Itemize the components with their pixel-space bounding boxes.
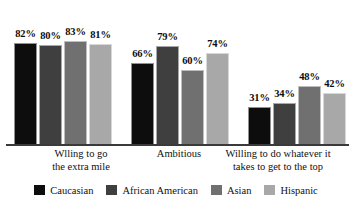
bar-hispanic[interactable] [89,44,112,146]
bar-caucasian[interactable] [248,107,271,146]
legend-label: Hispanic [280,185,317,196]
legend-item-caucasian[interactable]: Caucasian [34,185,93,196]
legend-item-asian[interactable]: Asian [211,185,252,196]
category-label-whatever-it-takes: Willing to do whatever it takes to get t… [204,148,352,173]
category-label-line2: takes to get to the top [204,161,352,174]
bar-hispanic[interactable] [206,53,229,146]
bar-group-ambitious: 66% 79% 60% 74% [131,0,229,146]
bar-caucasian[interactable] [14,43,37,146]
bar-african-american[interactable] [273,103,296,146]
bar-asian[interactable] [181,70,204,146]
bar-african-american[interactable] [39,45,62,146]
chart-legend: Caucasian African American Asian Hispani… [0,181,352,199]
bar-slot: 60% [181,0,204,146]
category-label-line1: Willing to do whatever it [225,148,330,159]
legend-item-hispanic[interactable]: Hispanic [264,185,317,196]
plot-area: 82% 80% 83% 81% 66% [0,0,352,146]
bar-group-whatever-it-takes: 31% 34% 48% 42% [248,0,346,146]
grouped-bar-chart: 82% 80% 83% 81% 66% [0,0,352,203]
legend-label: Caucasian [50,185,93,196]
category-labels: Wlling to go the extra mile Ambitious Wi… [0,148,352,178]
bar-group-willing-extra-mile: 82% 80% 83% 81% [14,0,112,146]
bar-slot: 81% [89,0,112,146]
bar-caucasian[interactable] [131,63,154,146]
legend-label: African American [122,185,198,196]
bar-value-label: 74% [207,38,227,49]
bar-asian[interactable] [298,86,321,146]
bar-african-american[interactable] [156,46,179,146]
bar-value-label: 42% [324,78,344,89]
x-axis-baseline [6,144,349,146]
bar-slot: 82% [14,0,37,146]
bar-value-label: 34% [274,88,294,99]
bar-value-label: 80% [40,30,60,41]
bar-value-label: 79% [157,31,177,42]
legend-swatch-caucasian [34,185,45,195]
bar-slot: 48% [298,0,321,146]
bar-slot: 66% [131,0,154,146]
legend-swatch-african-american [106,185,117,195]
legend-item-african-american[interactable]: African American [106,185,198,196]
bar-slot: 79% [156,0,179,146]
bar-slot: 42% [323,0,346,146]
legend-swatch-hispanic [264,185,275,195]
legend-label: Asian [227,185,252,196]
bar-slot: 31% [248,0,271,146]
bar-value-label: 60% [182,55,202,66]
bar-value-label: 83% [65,26,85,37]
bar-groups: 82% 80% 83% 81% 66% [14,0,346,146]
bar-slot: 74% [206,0,229,146]
category-label-line2: the extra mile [8,161,154,174]
bar-value-label: 81% [90,29,110,40]
bar-value-label: 48% [299,71,319,82]
bar-value-label: 31% [249,92,269,103]
bar-hispanic[interactable] [323,93,346,146]
bar-slot: 80% [39,0,62,146]
bar-asian[interactable] [64,41,87,146]
category-label-line1: Wlling to go [54,148,107,159]
bar-value-label: 66% [132,48,152,59]
legend-swatch-asian [211,185,222,195]
bar-slot: 83% [64,0,87,146]
category-label-line1: Ambitious [157,148,201,159]
bar-value-label: 82% [15,28,35,39]
bar-slot: 34% [273,0,296,146]
